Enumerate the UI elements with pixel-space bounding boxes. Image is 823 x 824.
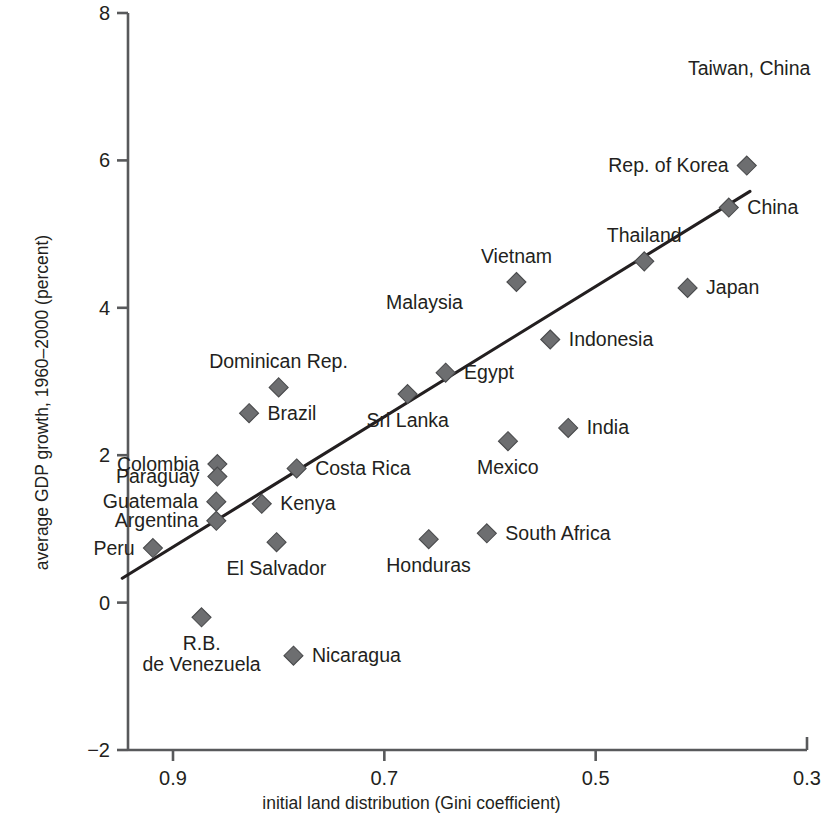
point-label: Vietnam [481,246,552,267]
point-label: Peru [93,538,134,559]
point-label: Japan [706,277,759,298]
point-label: Brazil [268,403,317,424]
point-label: Honduras [386,555,471,576]
data-marker-diamond [269,378,288,397]
x-tick-label: 0.9 [133,767,213,790]
data-marker-diamond [678,278,697,297]
data-marker-diamond [240,404,259,423]
point-label: Paraguay [116,466,199,487]
y-tick-label: 6 [0,149,110,172]
point-label: R.B.de Venezuela [143,633,261,675]
point-label: India [587,417,629,438]
data-marker-diamond [541,330,560,349]
point-label: Taiwan, China [688,58,810,79]
point-label: Malaysia [386,292,463,313]
y-tick-label: 4 [0,297,110,320]
x-tick-label: 0.5 [556,767,636,790]
x-axis-title: initial land distribution (Gini coeffici… [0,793,823,814]
data-marker-diamond [498,432,517,451]
point-label: China [747,197,798,218]
y-axis-title: average GDP growth, 1960–2000 (percent) [32,193,53,613]
point-label: Indonesia [569,329,654,350]
point-label: Kenya [280,493,335,514]
point-label: Thailand [607,225,682,246]
data-marker-diamond [737,156,756,175]
data-marker-diamond [192,608,211,627]
point-label: Egypt [464,362,514,383]
data-marker-diamond [207,511,226,530]
y-tick-label: −2 [0,739,110,762]
y-tick-label: 0 [0,592,110,615]
data-marker-diamond [208,467,227,486]
data-marker-diamond [477,524,496,543]
point-label: Nicaragua [312,645,401,666]
y-tick-label: 8 [0,2,110,25]
point-label: Rep. of Korea [608,155,728,176]
x-tick-label: 0.7 [344,767,424,790]
point-label: El Salvador [227,558,327,579]
x-tick-label: 0.3 [767,767,823,790]
point-label: Dominican Rep. [209,351,348,372]
data-marker-diamond [398,385,417,404]
data-marker-diamond [207,492,226,511]
y-tick-label: 2 [0,444,110,467]
point-label: Argentina [115,510,198,531]
point-label: Mexico [477,457,539,478]
data-marker-diamond [284,646,303,665]
data-marker-diamond [419,530,438,549]
scatter-plot-figure: average GDP growth, 1960–2000 (percent) … [0,0,823,824]
data-marker-diamond [267,533,286,552]
data-marker-diamond [436,363,455,382]
point-label: Sri Lanka [367,410,449,431]
data-marker-diamond [559,418,578,437]
point-label: South Africa [505,523,610,544]
data-marker-diamond [635,252,654,271]
data-marker-diamond [507,273,526,292]
point-label: Costa Rica [315,458,410,479]
